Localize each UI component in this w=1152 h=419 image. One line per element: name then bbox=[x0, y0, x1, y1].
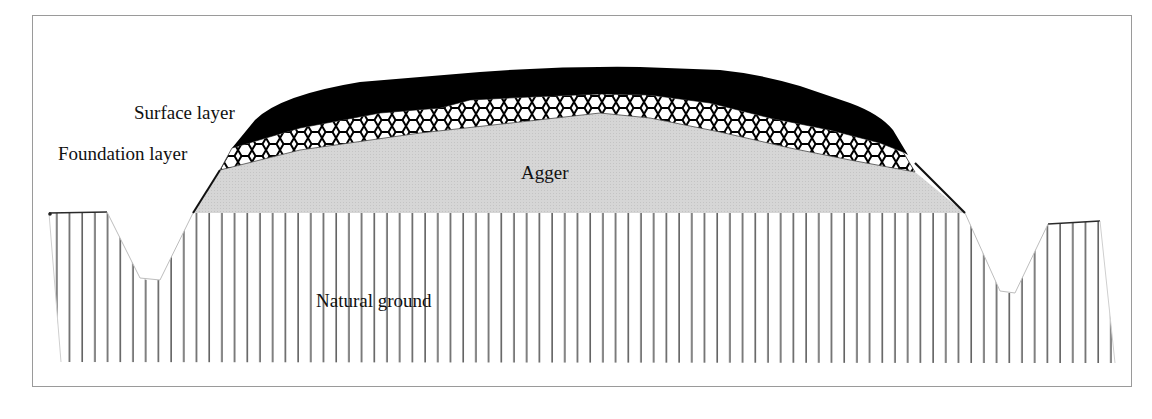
natural-ground-label: Natural ground bbox=[316, 291, 432, 310]
road-cross-section-diagram bbox=[0, 0, 1152, 419]
surface-layer-label: Surface layer bbox=[134, 103, 235, 122]
survey-point-marker bbox=[48, 212, 52, 216]
natural-ground bbox=[48, 212, 1115, 363]
foundation-layer-label: Foundation layer bbox=[58, 144, 187, 163]
agger-label: Agger bbox=[521, 163, 568, 182]
